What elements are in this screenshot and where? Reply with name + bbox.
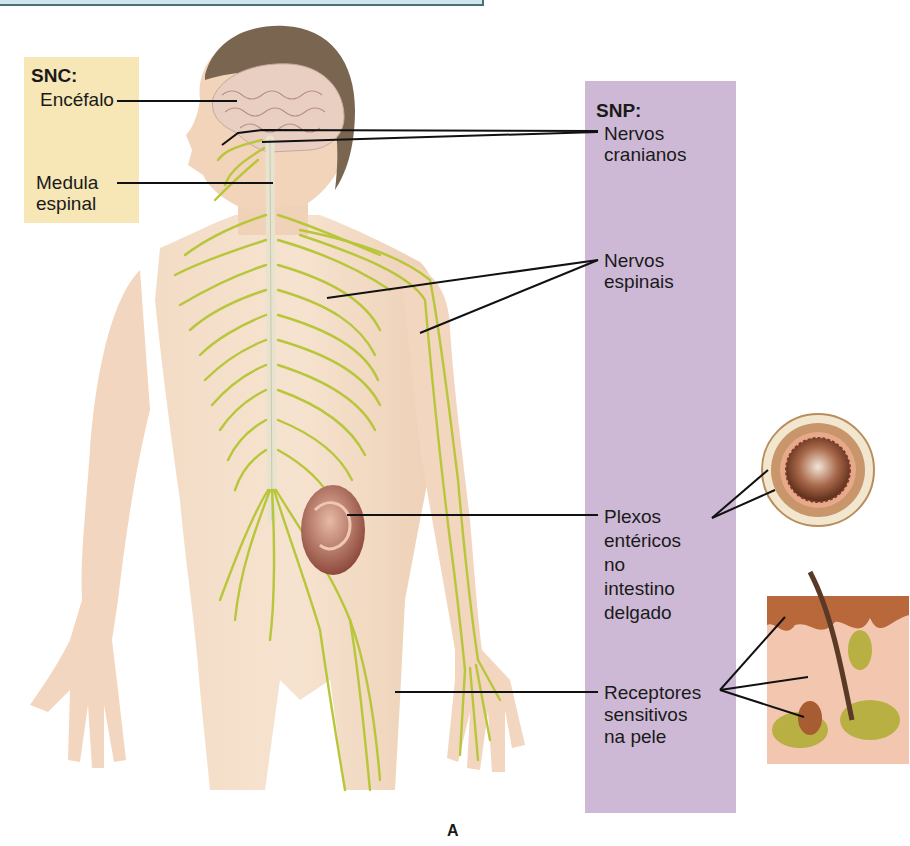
nervous-system-illustration (0, 0, 910, 846)
leader-plexos-inset-2 (712, 490, 775, 518)
label-nervos-espinais: Nervos espinais (604, 250, 674, 292)
label-plexos-entericos: Plexos entéricos no intestino delgado (604, 505, 681, 625)
snc-title: SNC: (31, 65, 77, 86)
snp-title: SNP: (596, 100, 641, 121)
figure-letter: A (447, 822, 459, 840)
leader-plexos-inset-1 (712, 470, 768, 518)
intestine-cross-section (762, 414, 874, 526)
leader-espinais-2 (420, 260, 598, 333)
human-body (30, 26, 525, 790)
label-receptores-sensitivos: Receptores sensitivos na pele (604, 682, 701, 748)
label-encefalo: Encéfalo (40, 89, 114, 110)
label-medula-espinal: Medula espinal (36, 172, 98, 214)
skin-section (767, 572, 909, 764)
label-nervos-cranianos: Nervos cranianos (604, 123, 686, 165)
small-intestine (301, 485, 365, 575)
